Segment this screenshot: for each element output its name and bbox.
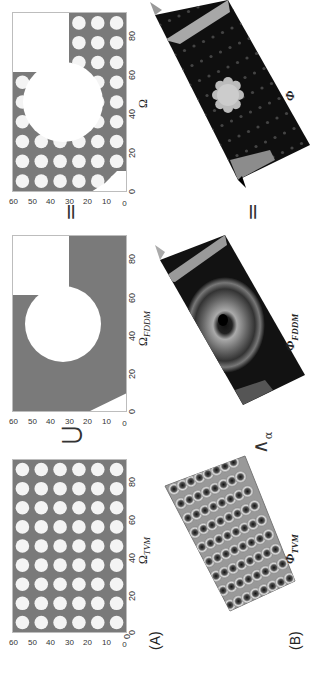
phi-label: Φ <box>282 91 298 101</box>
y-tick: 40 <box>46 197 55 206</box>
holes-grid <box>13 460 126 632</box>
union-domain <box>13 13 126 191</box>
x-axis-title-union: Ω <box>136 99 151 108</box>
panel-a-label: (A) <box>147 631 163 650</box>
phi-fddm-label: ΦFDDM <box>282 314 300 351</box>
surface-phi-tvm <box>160 446 310 616</box>
fddm-domain <box>13 236 126 411</box>
equals-operator-bottom: = <box>240 203 265 221</box>
y-tick: 50 <box>28 197 37 206</box>
y-tick: 30 <box>65 417 74 426</box>
x-axis-title-a: ΩTVM <box>136 537 152 564</box>
y-tick: 60 <box>9 638 18 647</box>
y-tick: 20 <box>83 638 92 647</box>
y-tick: 10 <box>102 197 111 206</box>
y-tick: 0 <box>122 640 126 649</box>
y-tick: 50 <box>28 638 37 647</box>
y-tick: 10 <box>102 638 111 647</box>
plot-omega-tvm <box>12 459 127 633</box>
y-tick: 30 <box>65 638 74 647</box>
y-tick: 20 <box>83 197 92 206</box>
y-tick: 0 <box>122 419 126 428</box>
y-tick: 60 <box>9 197 18 206</box>
plot-omega-union <box>12 12 127 192</box>
phi-tvm-label: ΦTVM <box>282 534 300 564</box>
y-tick: 30 <box>65 197 74 206</box>
y-tick: 40 <box>46 638 55 647</box>
y-tick: 0 <box>122 199 126 208</box>
y-tick: 60 <box>9 417 18 426</box>
wedge-alpha-operator: ∧α <box>248 432 275 454</box>
panel-b-label: (B) <box>287 631 303 650</box>
y-tick: 40 <box>46 417 55 426</box>
figure-stage: 0 0 20 40 60 80 ΩTVM (A) ⋃ 0 20 40 60 80… <box>0 0 314 676</box>
x-axis-title-fddm: ΩFDDM <box>136 311 152 346</box>
plot-omega-fddm <box>12 235 127 412</box>
y-tick: 20 <box>83 417 92 426</box>
y-tick: 10 <box>102 417 111 426</box>
y-tick: 50 <box>28 417 37 426</box>
union-operator: ⋃ <box>58 426 83 444</box>
